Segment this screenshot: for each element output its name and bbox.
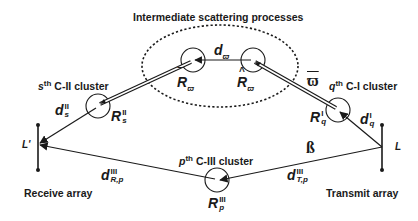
transmit-array-label: Transmit array — [326, 188, 398, 199]
radius-c1-label: RIq — [310, 110, 326, 126]
distance-tx-c3-label: dIIIT,p — [287, 168, 308, 184]
radius-c2-label: RIIs — [111, 109, 127, 125]
intermediate-region-ellipse — [142, 25, 298, 107]
scattering-diagram: Intermediate scattering processes sth C-… — [0, 0, 418, 221]
cluster-c2-label: sth C-II cluster — [38, 81, 109, 92]
transmit-node-label: L — [395, 142, 401, 152]
cluster-c3-circle — [205, 168, 229, 192]
receive-node-label: L' — [22, 140, 31, 150]
scatterer-right-radius-label: ^Rϖ — [237, 75, 254, 89]
beta-symbol: ß — [306, 140, 315, 156]
cluster-c2-circle — [86, 94, 110, 118]
omega-symbol: ϖ — [307, 73, 319, 89]
distance-tx-c1-label: dIq — [360, 112, 374, 128]
cluster-c3-label: pth C-III cluster — [179, 156, 253, 167]
cluster-c1-label: qth C-I cluster — [329, 81, 397, 92]
cluster-c1-circle — [326, 98, 350, 122]
scatterer-left-radius-label: ‾Rϖ — [177, 75, 194, 89]
title-label: Intermediate scattering processes — [133, 12, 303, 23]
distance-c3-rx-label: dIIIR,p — [101, 168, 123, 184]
path-c1-to-scatterer — [255, 62, 336, 108]
receive-array-label: Receive array — [24, 188, 92, 199]
cluster-c2-ordinal: th — [44, 79, 52, 88]
intermediate-distance-label: dϖ — [214, 43, 229, 57]
receive-array — [36, 123, 40, 172]
distance-c2-rx-label: dIIs — [55, 103, 69, 119]
radius-c3-label: RIIIp — [208, 196, 226, 212]
cluster-c2-name: C-II cluster — [54, 80, 108, 92]
